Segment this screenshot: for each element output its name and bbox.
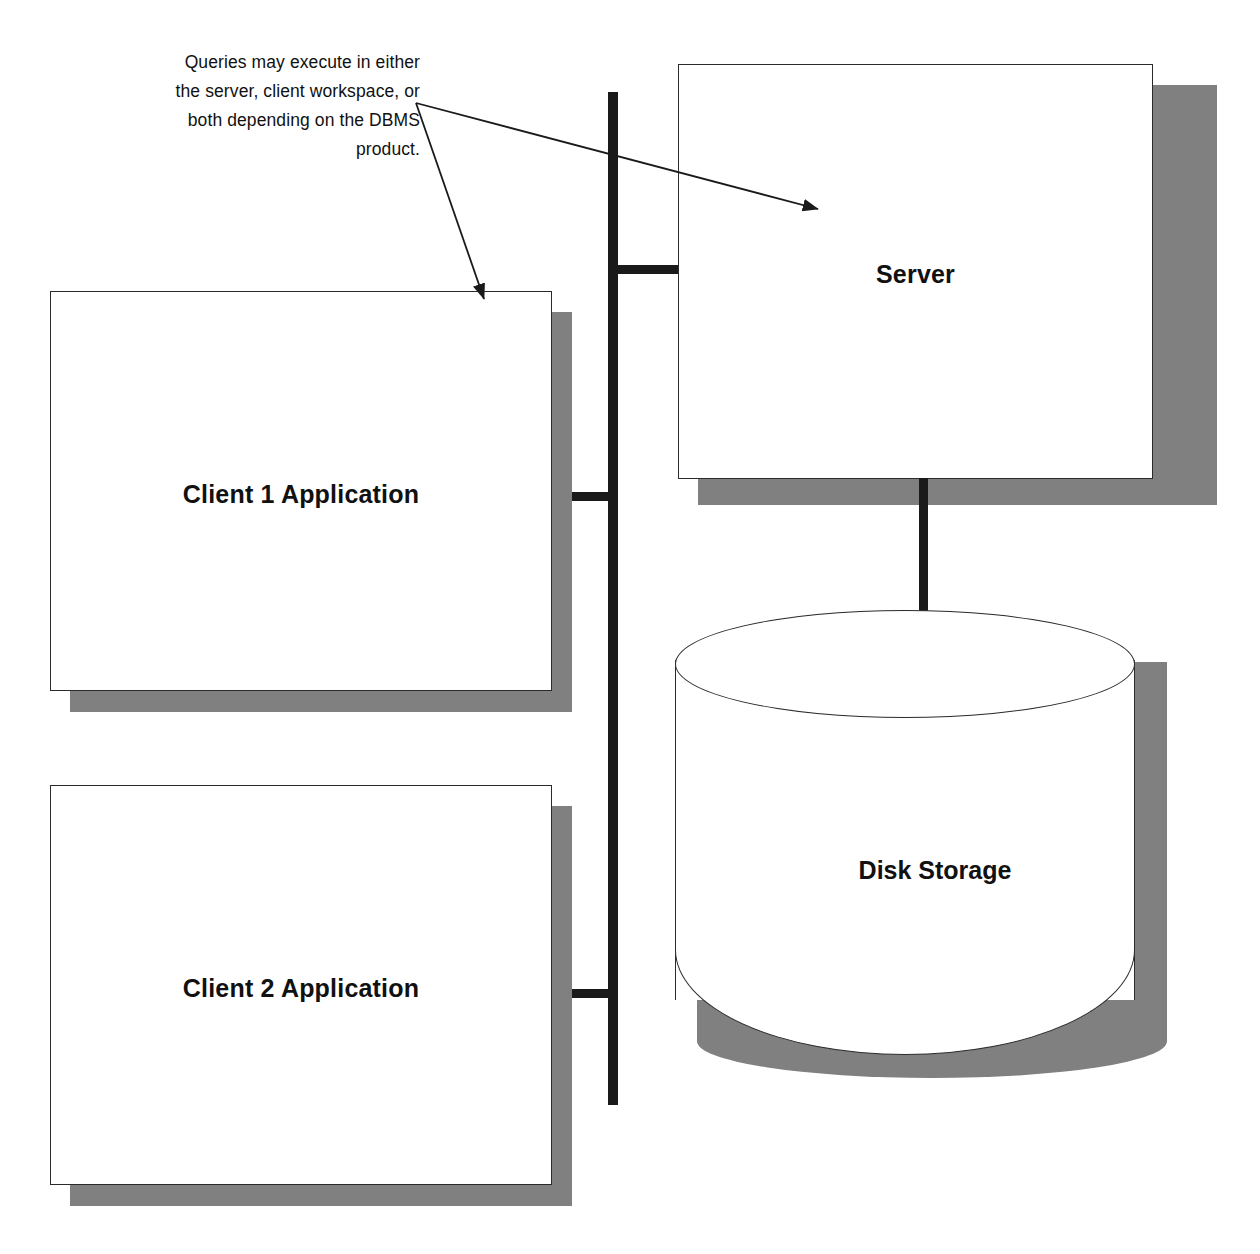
server-label: Server: [679, 260, 1152, 289]
node-client2[interactable]: Client 2 Application: [50, 785, 630, 1215]
node-client1[interactable]: Client 1 Application: [50, 291, 630, 721]
annotation-line-1: Queries may execute in either: [108, 48, 420, 77]
connector-server-to-bus: [612, 265, 684, 274]
disk-storage-label: Disk Storage: [675, 856, 1195, 885]
server-box[interactable]: Server: [678, 64, 1153, 479]
client1-label: Client 1 Application: [51, 480, 551, 509]
client2-box[interactable]: Client 2 Application: [50, 785, 552, 1185]
arrow-to-client1: [416, 103, 484, 299]
client2-label: Client 2 Application: [51, 974, 551, 1003]
disk-shadow-right: [1135, 662, 1167, 1042]
disk-top-ellipse: [675, 610, 1135, 718]
annotation-line-2: the server, client workspace, or: [108, 77, 420, 106]
node-disk-storage[interactable]: Disk Storage: [675, 598, 1195, 1098]
diagram-canvas: Queries may execute in either the server…: [0, 0, 1260, 1254]
annotation-line-4: product.: [108, 135, 420, 164]
client1-box[interactable]: Client 1 Application: [50, 291, 552, 691]
node-server[interactable]: Server: [678, 64, 1198, 506]
annotation-line-3: both depending on the DBMS: [108, 106, 420, 135]
annotation-note: Queries may execute in either the server…: [108, 48, 420, 164]
